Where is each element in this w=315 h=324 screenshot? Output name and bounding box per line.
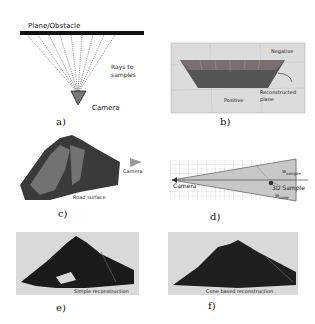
rays-label-2: samples — [111, 71, 136, 78]
panel-d: Camera 3D Sample wsample wcone d) — [170, 155, 315, 235]
panel-label-d: d) — [210, 211, 220, 222]
road-surface-label: Road surface — [73, 194, 106, 200]
panel-label-f: f) — [208, 300, 216, 311]
negative-label: Negative — [271, 48, 293, 54]
positive-label: Positive — [224, 97, 243, 103]
camera-label: Camera — [92, 104, 119, 112]
w-sample-label: wsample — [282, 168, 301, 176]
panel-a: Plane/Obstacle Rays to samples Camera a) — [0, 0, 160, 130]
panel-label-e: e) — [56, 302, 66, 313]
cone-reconstruction-caption: Cone based reconstruction — [206, 288, 273, 294]
camera-label: Camera — [123, 168, 143, 174]
simple-reconstruction-caption: Simple reconstruction — [74, 288, 129, 294]
cone-diagram — [170, 155, 315, 235]
panel-b: Negative Positive Reconstructed plane b) — [170, 40, 310, 130]
panel-label-c: c) — [58, 208, 68, 219]
w-cone-label: wcone — [275, 192, 289, 200]
panel-e: Simple reconstruction e) — [16, 232, 139, 322]
camera-icon — [130, 158, 142, 167]
camera-label: Camera — [173, 182, 197, 189]
reconstructed-label-1: Reconstructed — [260, 89, 296, 95]
road-mesh — [10, 130, 160, 225]
sample-label: 3D Sample — [272, 184, 305, 191]
panel-label-b: b) — [220, 116, 230, 127]
panel-label-a: a) — [56, 116, 66, 127]
panel-c: Camera Road surface c) — [10, 130, 160, 225]
plane-label: Plane/Obstacle — [28, 22, 80, 30]
panel-f: Cone based reconstruction f) — [168, 232, 298, 322]
ray-diagram — [0, 0, 160, 130]
reconstructed-label-2: plane — [260, 96, 274, 102]
camera-icon — [71, 91, 86, 105]
rays-label-1: Rays to — [111, 63, 133, 70]
